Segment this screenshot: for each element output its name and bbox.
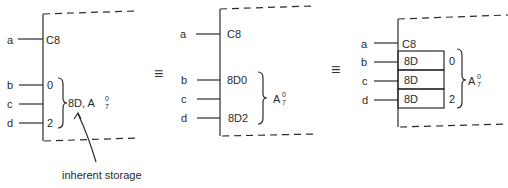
panel3-brace [457, 49, 466, 108]
panel3-bottom-dash [400, 124, 508, 127]
panel2-control-label: C8 [227, 28, 241, 40]
panel3-cell-label-0: 8D [404, 55, 418, 67]
panel1-arrow [78, 114, 96, 162]
panel3-input-d: d [362, 94, 368, 106]
panel1-group-label: 8D, A 0 7 [68, 97, 95, 109]
panel1-arrowhead [74, 113, 81, 119]
panel2-group-sup: 0 [282, 91, 286, 98]
panel1-bit-0: 0 [47, 79, 53, 91]
panel2-bottom-dash [222, 134, 316, 136]
panel1-control-label: C8 [46, 34, 60, 46]
panel1-top-dash [43, 11, 135, 14]
equivalence-symbol-2: ≡ [331, 62, 340, 78]
panel2-data-2: 8D2 [228, 112, 248, 124]
panel2-data-0: 8D0 [227, 74, 247, 86]
equivalence-symbol-1: ≡ [154, 66, 163, 82]
panel1-group-sup: 0 [105, 95, 109, 102]
panel3-cell-label-2: 8D [404, 93, 418, 105]
panel3-control-label: C8 [402, 38, 416, 50]
panel1-bit-2: 2 [47, 117, 53, 129]
panel1-group-sub: 7 [105, 103, 109, 110]
panel2-top-dash [220, 6, 312, 9]
panel1-input-b: b [7, 79, 13, 91]
panel2-group-label: A 0 7 [273, 93, 280, 105]
panel2-input-b: b [181, 74, 187, 86]
panel1-input-c: c [7, 98, 13, 110]
panel1-bottom-dash [44, 138, 137, 141]
panel2-group-sub: 7 [282, 99, 286, 106]
panel1-brace [58, 78, 67, 128]
diagram-lines [0, 0, 508, 188]
panel2-input-d: d [181, 112, 187, 124]
panel3-input-b: b [361, 56, 367, 68]
panel2-input-a: a [180, 28, 186, 40]
panel3-top-dash [398, 15, 508, 19]
panel3-bit-2: 2 [449, 93, 455, 105]
panel3-input-a: a [361, 38, 367, 50]
panel3-cell-label-1: 8D [404, 74, 418, 86]
panel1-group-text: 8D, A [68, 97, 95, 109]
panel1-input-a: a [7, 34, 13, 46]
panel2-group-text: A [273, 93, 280, 105]
panel3-input-c: c [362, 75, 368, 87]
panel3-group-sub: 7 [477, 81, 481, 88]
panel3-bit-0: 0 [449, 55, 455, 67]
panel2-input-c: c [181, 93, 187, 105]
panel3-group-label: A 0 7 [468, 75, 475, 87]
panel3-group-text: A [468, 75, 475, 87]
panel2-brace [258, 72, 267, 124]
panel1-annotation: inherent storage [62, 169, 142, 181]
panel3-group-sup: 0 [477, 73, 481, 80]
panel1-input-d: d [7, 117, 13, 129]
